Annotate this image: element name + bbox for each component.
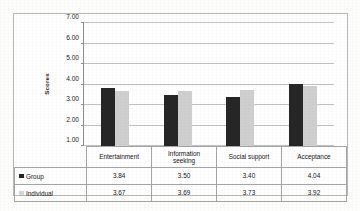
chart-frame: Scores 7.006.005.004.003.002.001.00 Ente… [13, 13, 348, 196]
bar-group [209, 23, 272, 146]
bar-group [164, 95, 178, 146]
y-axis-tick-label: 6.00 [66, 33, 79, 40]
table-row: Individual3.673.693.733.92 [15, 185, 347, 202]
category-header-cell: Entertainment [87, 147, 152, 168]
data-value-cell: 3.69 [152, 185, 217, 202]
bar-group [272, 23, 335, 146]
category-label-line1: Entertainment [87, 153, 151, 160]
bar-group [147, 23, 210, 146]
data-value-cell: 3.92 [281, 185, 346, 202]
bars-layer [84, 23, 334, 146]
data-value-cell: 3.50 [152, 168, 217, 185]
data-value-cell: 3.73 [217, 185, 282, 202]
data-value-cell: 3.40 [217, 168, 282, 185]
category-header-cell: Social support [217, 147, 282, 168]
data-value-cell: 3.84 [87, 168, 152, 185]
legend-swatch-icon [19, 191, 24, 196]
y-axis-tick-label: 7.00 [66, 13, 79, 20]
y-axis-tick-label: 3.00 [66, 95, 79, 102]
legend-label: Individual [26, 190, 53, 197]
bar-individual [115, 91, 129, 146]
data-table: EntertainmentInformationseekingSocial su… [14, 146, 347, 202]
bar-group [226, 97, 240, 146]
bar-group [84, 23, 147, 146]
category-label-line1: Social support [217, 153, 281, 160]
plot-area: 7.006.005.004.003.002.001.00 [84, 23, 334, 146]
table-row: Group3.843.503.404.04 [15, 168, 347, 185]
y-axis-tick-label: 4.00 [66, 74, 79, 81]
data-value-cell: 4.04 [281, 168, 346, 185]
legend-label: Group [26, 173, 44, 180]
legend-swatch-icon [19, 174, 24, 179]
data-value-cell: 3.67 [87, 185, 152, 202]
category-label-line1: Information [152, 150, 216, 157]
legend-entry-group[interactable]: Group [15, 168, 87, 185]
category-header-cell: Acceptance [281, 147, 346, 168]
table-row-category-headers: EntertainmentInformationseekingSocial su… [15, 147, 347, 168]
bar-group [101, 88, 115, 146]
bar-individual [178, 91, 192, 146]
legend-entry-individual[interactable]: Individual [15, 185, 87, 202]
category-label-line2: seeking [152, 157, 216, 164]
category-header-cell: Informationseeking [152, 147, 217, 168]
y-axis-title: Scores [23, 61, 69, 107]
bar-group [289, 84, 303, 146]
category-label-line1: Acceptance [282, 153, 346, 160]
bar-individual [240, 90, 254, 146]
table-corner-cell [15, 147, 87, 168]
y-axis-tick-label: 2.00 [66, 115, 79, 122]
bar-individual [303, 86, 317, 146]
y-axis-tick-label: 5.00 [66, 54, 79, 61]
y-axis-tick-label: 1.00 [66, 136, 79, 143]
